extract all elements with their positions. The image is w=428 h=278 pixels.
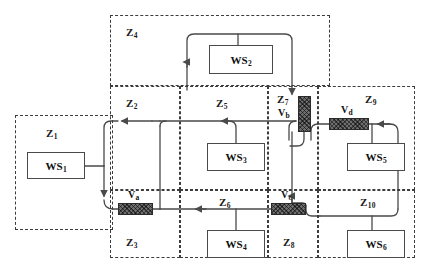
- zone-label-Z8: Z8: [283, 236, 295, 248]
- valve-Vb[interactable]: [298, 96, 311, 132]
- zone-sub-Z7: 7: [285, 98, 289, 107]
- zone-label-Z3: Z3: [126, 236, 138, 248]
- zone-region-Z3: [110, 190, 180, 258]
- valve-sub-Vd: d: [349, 108, 353, 117]
- workstation-label-WS6: WS6: [366, 238, 387, 250]
- valve-sub-Va: a: [136, 193, 140, 202]
- zone-sub-Z3: 3: [134, 241, 138, 250]
- workstation-label-WS4: WS4: [226, 238, 247, 250]
- valve-sub-Vb: b: [286, 111, 290, 120]
- zone-sub-Z10: 10: [368, 201, 376, 210]
- zone-label-Z7: Z7: [277, 93, 289, 105]
- valve-label-Va: Va: [128, 189, 139, 200]
- valve-Vc[interactable]: [271, 203, 306, 215]
- valve-Vd[interactable]: [329, 118, 369, 130]
- workstation-sub-WS6: 6: [383, 243, 387, 252]
- zone-label-Z9: Z9: [365, 93, 377, 105]
- workstation-WS2[interactable]: WS2: [209, 45, 273, 74]
- workstation-sub-WS1: 1: [63, 165, 67, 174]
- workstation-label-WS3: WS3: [226, 151, 247, 163]
- workstation-sub-WS3: 3: [243, 156, 247, 165]
- workstation-label-WS2: WS2: [231, 54, 252, 66]
- workstation-label-WS1: WS1: [46, 160, 67, 172]
- valve-sub-Vc: c: [289, 193, 292, 202]
- zone-sub-Z6: 6: [227, 201, 231, 210]
- workstation-sub-WS5: 5: [383, 156, 387, 165]
- workstation-WS6[interactable]: WS6: [347, 230, 405, 258]
- zone-label-Z10: Z10: [360, 196, 375, 208]
- zone-sub-Z1: 1: [54, 132, 58, 141]
- zone-region-Z2: [110, 86, 180, 190]
- zone-label-Z6: Z6: [219, 196, 231, 208]
- workstation-label-WS5: WS5: [366, 151, 387, 163]
- workstation-WS3[interactable]: WS3: [207, 143, 265, 171]
- valve-label-Vb: Vb: [278, 107, 289, 118]
- zone-sub-Z4: 4: [134, 31, 138, 40]
- valve-label-Vc: Vc: [281, 189, 292, 200]
- workstation-sub-WS4: 4: [243, 243, 247, 252]
- valve-Va[interactable]: [118, 203, 153, 215]
- zone-label-Z4: Z4: [126, 26, 138, 38]
- diagram-canvas: Z1 Z2 Z3 Z4 Z5 Z6 Z7 Z8 Z9 Z10 WS1 WS2 W…: [0, 0, 428, 278]
- workstation-WS1[interactable]: WS1: [27, 152, 85, 179]
- zone-sub-Z5: 5: [224, 102, 228, 111]
- zone-sub-Z2: 2: [134, 102, 138, 111]
- workstation-WS5[interactable]: WS5: [347, 143, 405, 171]
- zone-label-Z1: Z1: [46, 127, 58, 139]
- workstation-WS4[interactable]: WS4: [207, 230, 265, 258]
- zone-label-Z5: Z5: [216, 97, 228, 109]
- zone-label-Z2: Z2: [126, 97, 138, 109]
- zone-sub-Z8: 8: [291, 241, 295, 250]
- workstation-sub-WS2: 2: [248, 59, 252, 68]
- valve-label-Vd: Vd: [341, 104, 352, 115]
- zone-sub-Z9: 9: [373, 98, 377, 107]
